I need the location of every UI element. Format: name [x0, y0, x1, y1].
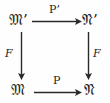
node-top-right: 𝔑’ [82, 13, 98, 28]
bottom-arrow-label: P [53, 75, 60, 86]
right-arrow [85, 32, 92, 80]
left-arrow-label: F [5, 48, 13, 59]
left-arrow [18, 32, 25, 80]
top-arrow [32, 18, 82, 25]
node-bottom-left: 𝔐 [11, 83, 25, 98]
top-arrow-label: P’ [49, 4, 60, 15]
right-arrow-label: F [93, 48, 101, 59]
commutative-diagram: 𝔐’ 𝔑’ 𝔐 𝔑 P’ P F F [0, 0, 110, 103]
bottom-arrow [34, 89, 82, 96]
node-bottom-right: 𝔑 [84, 83, 95, 98]
node-top-left: 𝔐’ [9, 13, 28, 28]
